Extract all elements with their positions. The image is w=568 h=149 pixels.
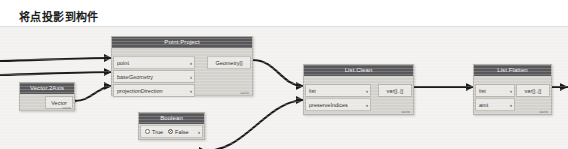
port-in-projectiondirection[interactable]: projectionDirection ›: [113, 84, 195, 97]
node-point-project[interactable]: Point.Project point › baseGeometry › pro…: [111, 36, 253, 96]
node-body-list-clean: list › preserveIndices › var[]..[] auto: [304, 76, 413, 115]
node-title-list-clean: List.Clean: [304, 65, 413, 76]
arrow-boolean-output: [199, 147, 207, 149]
node-footer-point-project: auto: [240, 90, 249, 95]
boolean-value-row[interactable]: True False ›: [140, 125, 203, 138]
wire-boolean-to-preserveindices: [205, 100, 302, 149]
node-footer-vector-2axis: auto: [62, 105, 71, 110]
port-out-geometry-array[interactable]: Geometry[]: [207, 56, 251, 69]
chevron-right-icon: ›: [190, 57, 192, 69]
node-list-clean[interactable]: List.Clean list › preserveIndices › var[…: [303, 64, 414, 115]
wire-incoming-basegeometry: [0, 72, 110, 75]
arrow-listflatten-output-end: [560, 83, 568, 91]
node-title-list-flatten: List.Flatten: [474, 65, 551, 76]
port-label-var-array: var[]..[]: [525, 88, 542, 94]
chevron-right-icon: ›: [510, 99, 512, 111]
node-footer-list-clean: auto: [401, 109, 410, 114]
port-label-basegeometry: baseGeometry: [117, 74, 153, 80]
radio-label-false: False: [175, 129, 188, 135]
radio-dot-icon: [145, 129, 150, 134]
port-label-point: point: [117, 60, 129, 66]
radio-label-true: True: [152, 129, 163, 135]
graph-canvas[interactable]: Point.Project point › baseGeometry › pro…: [0, 26, 568, 149]
port-label-list: list: [309, 88, 316, 94]
port-in-amt[interactable]: amt ›: [475, 98, 515, 111]
chevron-right-icon: ›: [198, 126, 200, 139]
port-label-projectiondirection: projectionDirection: [117, 88, 163, 94]
node-vector-2axis[interactable]: Vector.2Axis Vector auto: [19, 82, 75, 111]
node-boolean[interactable]: Boolean True False ›: [138, 112, 205, 140]
port-in-list[interactable]: list ›: [305, 84, 371, 97]
port-label-geometry-array: Geometry[]: [215, 60, 242, 66]
node-title-boolean: Boolean: [139, 113, 204, 124]
port-label-preserveindices: preserveIndices: [309, 102, 348, 108]
chevron-right-icon: ›: [190, 85, 192, 97]
screenshot-root: 将点投影到构件: [0, 0, 568, 149]
wire-vector-to-projectiondirection: [75, 86, 110, 101]
port-out-var-array[interactable]: var[]..[]: [378, 84, 412, 97]
chevron-right-icon: ›: [366, 85, 368, 97]
wire-incoming-point: [0, 58, 110, 61]
node-body-vector-2axis: Vector auto: [20, 94, 74, 111]
port-label-list: list: [479, 88, 486, 94]
node-footer-list-flatten: auto: [539, 109, 548, 114]
radio-dot-selected-icon: [168, 129, 173, 134]
chevron-right-icon: ›: [190, 71, 192, 83]
port-in-basegeometry[interactable]: baseGeometry ›: [113, 70, 195, 83]
port-label-amt: amt: [479, 102, 488, 108]
radio-true[interactable]: True: [145, 129, 163, 135]
page-title: 将点投影到构件: [19, 8, 99, 24]
node-title-vector-2axis: Vector.2Axis: [20, 83, 74, 94]
port-in-point[interactable]: point ›: [113, 56, 195, 69]
chevron-right-icon: ›: [510, 85, 512, 97]
node-body-list-flatten: list › amt › var[]..[] auto: [474, 76, 551, 115]
radio-false[interactable]: False: [168, 129, 188, 135]
port-in-preserveindices[interactable]: preserveIndices ›: [305, 98, 371, 111]
node-body-point-project: point › baseGeometry › projectionDirecti…: [112, 48, 252, 96]
port-out-var-array[interactable]: var[]..[]: [516, 84, 550, 97]
chevron-right-icon: ›: [366, 99, 368, 111]
wire-geometry-to-listclean-list: [253, 60, 302, 86]
node-title-point-project: Point.Project: [112, 37, 252, 48]
port-in-list[interactable]: list ›: [475, 84, 515, 97]
node-list-flatten[interactable]: List.Flatten list › amt › var[]..[] auto: [473, 64, 552, 115]
node-body-boolean: True False ›: [139, 125, 204, 141]
port-label-var-array: var[]..[]: [387, 88, 404, 94]
